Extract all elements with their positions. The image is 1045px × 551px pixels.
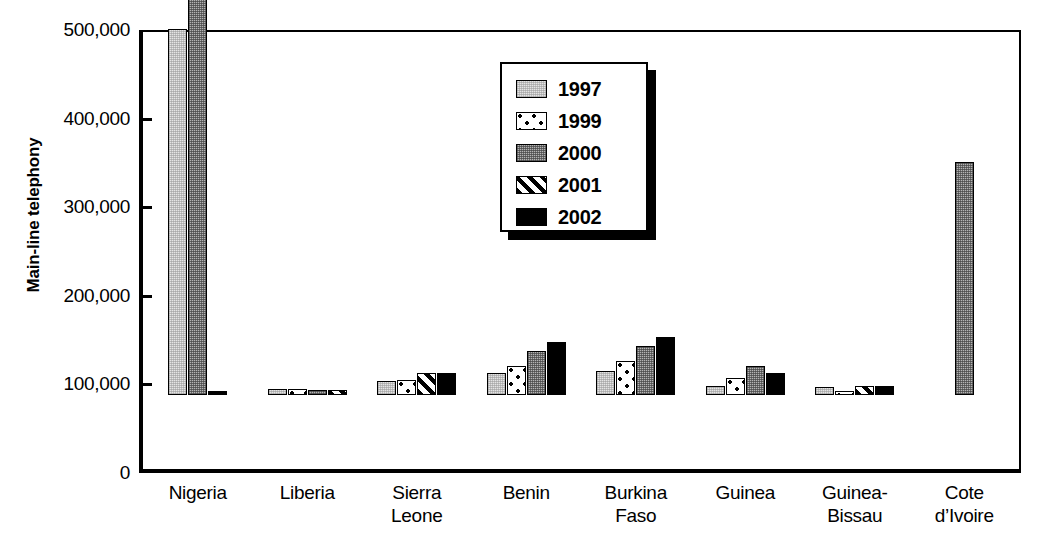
bar-burkina-faso-1999: [616, 361, 635, 395]
x-axis-label-line: Burkina: [581, 481, 691, 504]
bar-benin-1997: [487, 373, 506, 395]
legend-swatch-icon: [516, 112, 547, 130]
x-axis-label-nigeria: Nigeria: [143, 481, 253, 504]
x-axis-label-line: d’Ivoire: [910, 504, 1020, 527]
bar-group: [691, 0, 801, 395]
x-axis-label-burkina-faso: BurkinaFaso: [581, 481, 691, 527]
bar-burkina-faso-2000: [636, 346, 655, 395]
x-axis-label-line: Sierra: [362, 481, 472, 504]
bar-nigeria-2002: [208, 391, 227, 395]
bar-liberia-2000: [308, 390, 327, 395]
bar-guinea-bissau-2001: [855, 386, 874, 395]
bar-sierra-leone-2002: [437, 373, 456, 395]
y-axis-tick-mark: [139, 295, 152, 298]
y-axis-tick-mark: [139, 118, 152, 121]
bar-group: [143, 0, 253, 395]
y-axis-tick-label: 500,000: [10, 20, 130, 39]
y-axis-tick-label: 100,000: [10, 374, 130, 393]
bar-group: [253, 0, 363, 395]
bar-guinea-2002: [766, 373, 785, 395]
legend-label: 1999: [558, 111, 601, 131]
bar-burkina-faso-1997: [596, 371, 615, 395]
bar-liberia-1999: [288, 389, 307, 395]
y-axis-tick-label: 0: [10, 463, 130, 482]
x-axis-label-sierra-leone: SierraLeone: [362, 481, 472, 527]
legend-swatch-icon: [516, 176, 547, 194]
y-axis-tick-label: 300,000: [10, 197, 130, 216]
legend-swatch-icon: [516, 208, 547, 226]
x-axis-label-line: Guinea: [691, 481, 801, 504]
bar-sierra-leone-1997: [377, 381, 396, 395]
legend-label: 1997: [558, 79, 601, 99]
bar-cote-d-ivoire-2000: [955, 162, 974, 395]
bar-nigeria-2000: [188, 0, 207, 395]
x-axis-label-guinea-bissau: Guinea-Bissau: [800, 481, 910, 527]
y-axis-tick-labels: 500,000400,000300,000200,000100,0000: [14, 0, 130, 551]
legend-swatch-icon: [516, 80, 547, 98]
y-axis-tick-label: 400,000: [10, 109, 130, 128]
legend-item-1999: 1999: [516, 106, 646, 136]
bar-chart: Main-line telephony 500,000400,000300,00…: [0, 0, 1045, 551]
legend-item-2000: 2000: [516, 138, 646, 168]
legend-swatch-icon: [516, 144, 547, 162]
bar-guinea-bissau-1997: [815, 387, 834, 395]
x-axis-label-line: Bissau: [800, 504, 910, 527]
bar-burkina-faso-2002: [656, 337, 675, 395]
bar-benin-1999: [507, 366, 526, 395]
legend-label: 2001: [558, 175, 601, 195]
bar-group: [362, 0, 472, 395]
legend-label: 2000: [558, 143, 601, 163]
x-axis-label-cote-d-ivoire: Coted’Ivoire: [910, 481, 1020, 527]
bar-sierra-leone-2001: [417, 373, 436, 395]
bar-benin-2002: [547, 342, 566, 395]
y-axis-tick-mark: [139, 206, 152, 209]
bar-benin-2000: [527, 351, 546, 395]
bar-guinea-1999: [726, 378, 745, 395]
chart-legend: 19971999200020012002: [500, 62, 648, 232]
x-axis-label-liberia: Liberia: [253, 481, 363, 504]
bar-guinea-1997: [706, 386, 725, 395]
x-axis-label-line: Guinea-: [800, 481, 910, 504]
legend-item-2001: 2001: [516, 170, 646, 200]
bar-nigeria-1997: [168, 29, 187, 395]
bar-liberia-1997: [268, 389, 287, 395]
bar-liberia-2001: [328, 390, 347, 395]
x-axis-label-line: Liberia: [253, 481, 363, 504]
x-axis-label-line: Benin: [472, 481, 582, 504]
y-axis-tick-label: 200,000: [10, 286, 130, 305]
bar-group: [910, 0, 1020, 395]
bar-sierra-leone-1999: [397, 380, 416, 395]
x-axis-label-line: Leone: [362, 504, 472, 527]
x-axis-label-line: Cote: [910, 481, 1020, 504]
legend-label: 2002: [558, 207, 601, 227]
bar-guinea-bissau-1999: [835, 391, 854, 395]
x-axis-label-line: Nigeria: [143, 481, 253, 504]
legend-item-1997: 1997: [516, 74, 646, 104]
bar-guinea-2000: [746, 366, 765, 395]
bar-group: [800, 0, 910, 395]
y-axis-tick-mark: [139, 383, 152, 386]
bar-guinea-bissau-2002: [875, 386, 894, 395]
x-axis-label-guinea: Guinea: [691, 481, 801, 504]
x-axis-category-labels: NigeriaLiberiaSierraLeoneBeninBurkinaFas…: [143, 481, 1019, 551]
legend-item-2002: 2002: [516, 202, 646, 232]
x-axis-label-benin: Benin: [472, 481, 582, 504]
x-axis-label-line: Faso: [581, 504, 691, 527]
